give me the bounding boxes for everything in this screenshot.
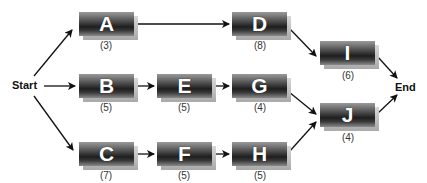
- duration-h: (5): [240, 170, 280, 181]
- node-label: D: [252, 12, 267, 36]
- edge-h-j: [289, 122, 316, 152]
- duration-a: (3): [86, 40, 126, 51]
- node-label: J: [342, 103, 354, 127]
- duration-i: (6): [328, 70, 368, 81]
- node-box: A: [79, 12, 134, 36]
- duration-j: (4): [328, 132, 368, 143]
- node-b: B: [79, 74, 134, 98]
- edge-start-a: [34, 30, 72, 76]
- node-label: B: [99, 74, 114, 98]
- edge-i-end: [377, 56, 397, 78]
- node-label: I: [345, 41, 351, 65]
- node-label: G: [251, 74, 267, 98]
- node-g: G: [232, 74, 287, 98]
- node-label: C: [99, 142, 114, 166]
- edge-j-end: [377, 95, 397, 114]
- node-label: E: [177, 74, 191, 98]
- node-label: A: [99, 12, 114, 36]
- node-box: I: [320, 41, 375, 65]
- node-i: I: [320, 41, 375, 65]
- node-box: F: [157, 142, 212, 166]
- node-box: B: [79, 74, 134, 98]
- node-a: A: [79, 12, 134, 36]
- node-box: D: [232, 12, 287, 36]
- node-d: D: [232, 12, 287, 36]
- node-label: H: [252, 142, 267, 166]
- duration-g: (4): [240, 102, 280, 113]
- node-h: H: [232, 142, 287, 166]
- node-box: E: [157, 74, 212, 98]
- node-c: C: [79, 142, 134, 166]
- edge-d-i: [289, 28, 316, 56]
- node-box: J: [320, 103, 375, 127]
- start-label: Start: [12, 79, 37, 91]
- node-f: F: [157, 142, 212, 166]
- node-box: H: [232, 142, 287, 166]
- duration-b: (5): [86, 102, 126, 113]
- end-label: End: [395, 81, 416, 93]
- duration-e: (5): [164, 102, 204, 113]
- edge-start-c: [34, 96, 73, 150]
- duration-f: (5): [164, 170, 204, 181]
- node-box: C: [79, 142, 134, 166]
- duration-d: (8): [240, 40, 280, 51]
- node-box: G: [232, 74, 287, 98]
- duration-c: (7): [86, 170, 126, 181]
- network-diagram: Start End A (3) B (5) C (7) D (8) E (5) …: [0, 0, 427, 183]
- node-e: E: [157, 74, 212, 98]
- node-j: J: [320, 103, 375, 127]
- node-label: F: [178, 142, 191, 166]
- edge-g-j: [289, 92, 316, 114]
